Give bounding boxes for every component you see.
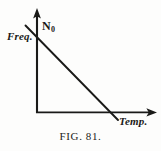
plot-graphic <box>0 0 161 151</box>
figure-caption: FIG. 81. <box>0 130 161 142</box>
intercept-point-symbol: N <box>42 19 51 33</box>
figure-container: Freq. Temp. N0 FIG. 81. <box>0 0 161 151</box>
data-series-group <box>26 26 119 121</box>
intercept-point-label: N0 <box>42 20 55 34</box>
frequency-vs-temperature-line <box>26 26 119 121</box>
y-axis-label: Freq. <box>7 31 33 42</box>
x-axis-label: Temp. <box>119 116 147 127</box>
intercept-point-subscript: 0 <box>51 25 55 34</box>
